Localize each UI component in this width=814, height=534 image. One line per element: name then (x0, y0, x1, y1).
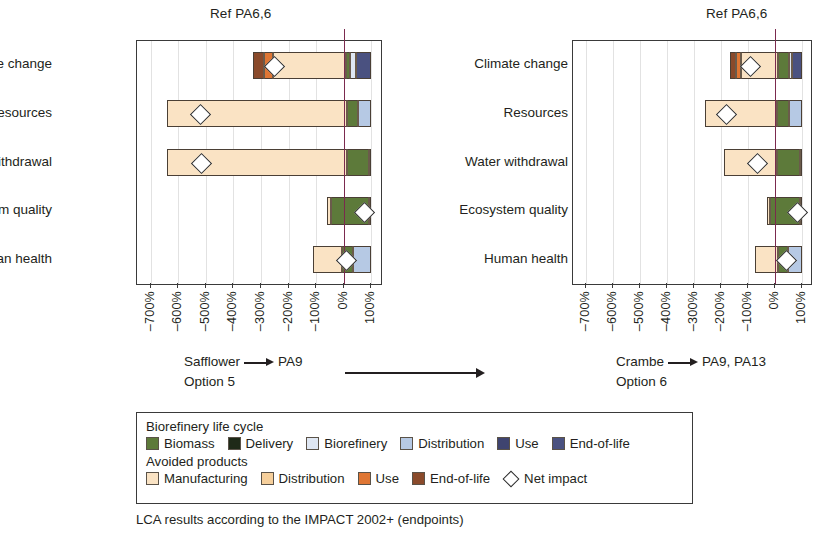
x-axis-tick-mark (177, 283, 178, 288)
x-axis-tick-mark (260, 283, 261, 288)
arrow-icon (244, 358, 274, 367)
figure-footnote: LCA results according to the IMPACT 2002… (136, 512, 464, 527)
y-axis-label-climate-change: Climate change (268, 57, 568, 71)
x-axis-tick-mark (801, 283, 802, 288)
x-axis-tick-label: –100% (308, 291, 322, 331)
caption-from-label: Safflower (184, 354, 240, 369)
bar-segment-endoflife (792, 52, 801, 79)
legend-group2-title: Avoided products (146, 454, 683, 469)
gridline (613, 41, 614, 284)
x-axis-tick-mark (288, 283, 289, 288)
panel-caption-option6: CrambePA9, PA13 Option 6 (616, 352, 766, 391)
x-axis-tick-mark (232, 283, 233, 288)
bar-segment-eol_avoided (253, 52, 264, 79)
legend-swatch (261, 472, 274, 485)
legend-group2-items: ManufacturingDistributionUseEnd-of-lifeN… (146, 471, 683, 486)
y-axis-label-human-health: Human health (0, 252, 52, 266)
x-axis-tick-label: –100% (740, 291, 754, 331)
legend-item: Distribution (400, 436, 484, 451)
legend-item: Use (497, 436, 538, 451)
legend-swatch (146, 437, 159, 450)
legend-item: Distribution (261, 471, 345, 486)
legend-swatch (228, 437, 241, 450)
y-axis-label-human-health: Human health (268, 252, 568, 266)
x-axis-tick-label: 0% (336, 291, 350, 310)
gridline (721, 41, 722, 284)
legend-swatch (306, 437, 319, 450)
x-axis-tick-mark (205, 283, 206, 288)
caption-from-label: Crambe (616, 354, 664, 369)
gridline (640, 41, 641, 284)
gridline (586, 41, 587, 284)
x-axis-tick-mark (612, 283, 613, 288)
x-axis-tick-mark (666, 283, 667, 288)
y-axis-label-ecosystem-quality: Ecosystem quality (0, 203, 52, 217)
legend-label: Manufacturing (164, 471, 248, 486)
legend-label: End-of-life (430, 471, 490, 486)
arrow-icon (668, 358, 698, 367)
legend-label: Distribution (279, 471, 345, 486)
x-axis-tick-label: –300% (686, 291, 700, 331)
legend-swatch (497, 437, 510, 450)
legend-item: Biomass (146, 436, 215, 451)
x-axis-tick-mark (720, 283, 721, 288)
bar-segment-distribution (789, 100, 801, 127)
legend-item: Delivery (228, 436, 294, 451)
gridline (667, 41, 668, 284)
x-axis-tick-label: 100% (363, 291, 377, 324)
legend-group1-title: Biorefinery life cycle (146, 419, 683, 434)
x-axis-tick-label: –700% (578, 291, 592, 331)
x-axis-tick-mark (315, 283, 316, 288)
x-axis-tick-mark (585, 283, 586, 288)
bar-segment-distribution (800, 149, 802, 176)
x-axis-tick-mark (747, 283, 748, 288)
y-axis-label-water-withdrawal: Water withdrawal (268, 155, 568, 169)
reference-line (775, 29, 776, 284)
chart-panel-option5: Ref PA6,6 SafflowerPA9 Option 5 Climate … (0, 0, 410, 350)
legend-label: Use (515, 436, 538, 451)
gridline (151, 41, 152, 284)
caption-to-label: PA9, PA13 (702, 354, 766, 369)
legend-label: Biorefinery (324, 436, 387, 451)
x-axis-tick-label: –200% (713, 291, 727, 331)
bar-segment-biomass (778, 52, 789, 79)
transition-arrow-icon (345, 368, 485, 378)
diamond-icon (503, 470, 520, 487)
legend-box: Biorefinery life cycle BiomassDeliveryBi… (136, 412, 693, 504)
caption-to-label: PA9 (278, 354, 303, 369)
x-axis-tick-label: –700% (143, 291, 157, 331)
x-axis-tick-label: 0% (767, 291, 781, 310)
legend-swatch (552, 437, 565, 450)
legend-label: Use (376, 471, 399, 486)
reference-line-label-right: Ref PA6,6 (706, 6, 767, 21)
legend-swatch (358, 472, 371, 485)
legend-group1-items: BiomassDeliveryBiorefineryDistributionUs… (146, 436, 683, 451)
legend-item: End-of-life (412, 471, 490, 486)
y-axis-label-resources: Resources (268, 106, 568, 120)
gridline (694, 41, 695, 284)
bar-segment-biomass (777, 100, 789, 127)
x-axis-tick-mark (774, 283, 775, 288)
x-axis-tick-mark (639, 283, 640, 288)
x-axis-tick-label: –500% (632, 291, 646, 331)
x-axis-tick-mark (693, 283, 694, 288)
legend-swatch (400, 437, 413, 450)
legend-item: End-of-life (552, 436, 630, 451)
reference-line-label-left: Ref PA6,6 (210, 6, 271, 21)
x-axis-tick-label: –600% (170, 291, 184, 331)
x-axis-tick-mark (150, 283, 151, 288)
gridline (802, 41, 803, 284)
bar-segment-biomass (777, 149, 800, 176)
panel-caption-option5: SafflowerPA9 Option 5 (184, 352, 303, 391)
lca-figure: Ref PA6,6 SafflowerPA9 Option 5 Climate … (0, 0, 814, 534)
legend-item: Use (358, 471, 399, 486)
plot-area-option6 (572, 40, 812, 285)
y-axis-label-climate-change: Climate change (0, 57, 52, 71)
x-axis-tick-label: –600% (605, 291, 619, 331)
y-axis-label-ecosystem-quality: Ecosystem quality (268, 203, 568, 217)
legend-label: Biomass (164, 436, 215, 451)
legend-item: Biorefinery (306, 436, 387, 451)
legend-label: Net impact (524, 471, 587, 486)
caption-option-label: Option 5 (184, 374, 235, 389)
chart-panel-option6: Ref PA6,6 CrambePA9, PA13 Option 6 Clima… (410, 0, 814, 350)
